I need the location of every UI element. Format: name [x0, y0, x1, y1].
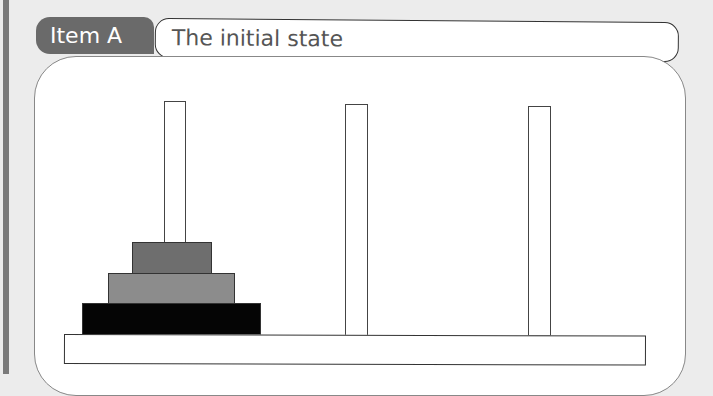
peg-right: [528, 106, 551, 336]
disk-large: [82, 303, 261, 335]
left-margin-bar: [3, 0, 9, 374]
base-platform: [64, 334, 646, 366]
peg-left: [164, 101, 186, 244]
disk-medium: [108, 273, 235, 304]
disk-small: [132, 242, 212, 274]
peg-middle: [345, 104, 368, 336]
item-label-badge: Item A: [36, 17, 154, 54]
